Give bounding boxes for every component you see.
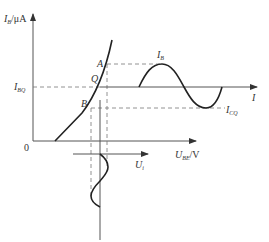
ibq-label: IBQ <box>13 81 26 93</box>
point-a-label: A <box>96 58 104 69</box>
input-characteristic-diagram: IB/μA UBE/V 0 A Q B IBQ IB ICQ I Ui <box>0 0 269 242</box>
point-q-label: Q <box>91 73 99 84</box>
x-axis-label: UBE/V <box>175 149 200 161</box>
origin-label: 0 <box>24 142 29 153</box>
y-axis-label: IB/μA <box>3 13 27 25</box>
ib-label: IB <box>156 49 164 61</box>
point-b-label: B <box>81 98 87 109</box>
ib-sine-wave <box>139 64 222 108</box>
icq-label: ICQ <box>225 104 238 116</box>
ui-label: Ui <box>135 159 144 171</box>
time-axis-label: I <box>251 92 256 103</box>
characteristic-curve <box>55 40 112 141</box>
